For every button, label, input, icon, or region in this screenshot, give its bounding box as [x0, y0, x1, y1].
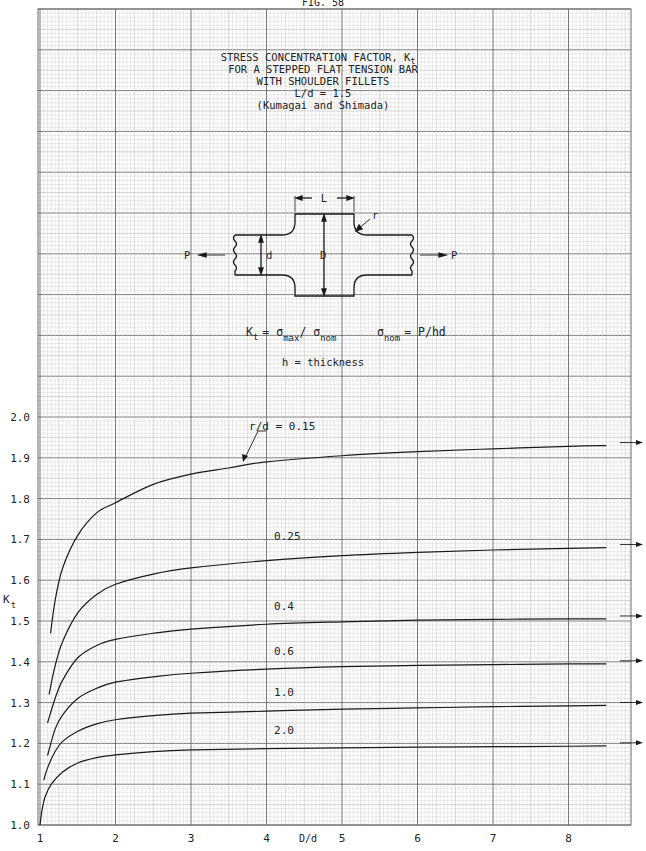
y-tick-label: 1.7	[10, 533, 30, 546]
label-L: L	[321, 192, 327, 204]
x-tick-label: 6	[414, 832, 421, 845]
title-line-3: WITH SHOULDER FILLETS	[257, 75, 390, 87]
title-line-4: L/d = 1.5	[295, 87, 352, 99]
thickness-note: h = thickness	[282, 356, 364, 368]
x-tick-label: 7	[490, 832, 497, 845]
y-tick-label: 1.2	[10, 737, 30, 750]
x-axis-label: D/d	[299, 833, 317, 844]
graph-paper-grid	[38, 9, 631, 825]
arrow-right-icon	[636, 440, 643, 445]
x-tick-label: 8	[565, 832, 572, 845]
curve-label: 1.0	[274, 686, 294, 699]
curve-label: 2.0	[274, 724, 294, 737]
figure-label: FIG. 58	[302, 0, 344, 8]
label-d: d	[266, 249, 272, 261]
label-P-right: P	[451, 249, 457, 261]
y-tick-label: 1.8	[10, 493, 30, 506]
x-tick-label: 1	[37, 832, 44, 845]
y-tick-label: 1.3	[10, 697, 30, 710]
title-line-2: FOR A STEPPED FLAT TENSION BAR	[228, 63, 418, 75]
y-tick-label: 1.1	[10, 778, 30, 791]
curve-rd-1.0	[44, 705, 606, 780]
y-tick-label: 1.5	[10, 615, 30, 628]
y-axis-label: K	[3, 593, 10, 606]
title-line-1: STRESS CONCENTRATION FACTOR, K	[221, 51, 411, 63]
break-right	[411, 235, 414, 275]
arrow-right-icon	[636, 542, 643, 547]
arrow-right-icon	[636, 740, 643, 745]
y-tick-label: 1.0	[10, 819, 30, 832]
chart-title: STRESS CONCENTRATION FACTOR, Kt FOR A ST…	[205, 48, 441, 111]
chart: FIG. 58 STRESS CONCENTRATION FACTOR, Kt …	[0, 0, 646, 851]
label-r: r	[372, 209, 378, 221]
label-P-left: P	[184, 249, 190, 261]
curve-label: 0.4	[274, 600, 294, 613]
x-tick-label: 5	[339, 832, 346, 845]
x-tick-label: 2	[112, 832, 119, 845]
title-line-5: (Kumagai and Shimada)	[257, 99, 390, 111]
y-tick-label: 1.9	[10, 452, 30, 465]
y-tick-label: 1.4	[10, 656, 30, 669]
curve-label: 0.6	[274, 645, 294, 658]
arrow-right-icon	[636, 613, 643, 618]
arrow-right-icon	[636, 658, 643, 663]
y-tick-label: 2.0	[10, 411, 30, 424]
y-tick-label: 1.6	[10, 574, 30, 587]
svg-text:t: t	[11, 601, 16, 610]
x-tick-label: 3	[188, 832, 195, 845]
arrow-right-icon	[636, 700, 643, 705]
label-D: D	[320, 249, 326, 261]
x-tick-label: 4	[263, 832, 270, 845]
curve-label: 0.25	[274, 530, 301, 543]
